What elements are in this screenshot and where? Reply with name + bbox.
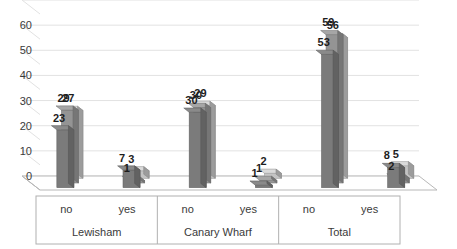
x-axis-category-label: yes <box>97 204 158 215</box>
x-axis-group-label: Total <box>279 227 400 238</box>
bar-value-label: 23 <box>53 113 65 124</box>
gridline-depth-edge <box>22 0 40 14</box>
x-axis-category-label: no <box>36 204 97 215</box>
y-axis-tick-label: 60 <box>2 20 32 31</box>
bar-value-label: 8 <box>384 150 390 161</box>
bar-side-face <box>68 126 73 188</box>
bar-value-label: 30 <box>185 95 197 106</box>
bar-value-label: 53 <box>318 37 330 48</box>
y-axis-tick-label: 40 <box>2 70 32 81</box>
bar-value-label: 5 <box>393 149 399 160</box>
x-axis-category-label: yes <box>218 204 279 215</box>
bar-side-face <box>135 166 140 188</box>
x-axis-category-label: yes <box>339 204 400 215</box>
bar-value-label: 59 <box>322 17 334 28</box>
y-axis-tick-label: 50 <box>2 45 32 56</box>
chart-floor <box>22 176 437 190</box>
y-axis-tick-label: 0 <box>2 171 32 182</box>
x-axis-category-label: no <box>157 204 218 215</box>
bar-side-face <box>333 50 338 187</box>
bar-value-label: 1 <box>251 168 257 179</box>
bars <box>51 30 413 187</box>
bar <box>316 50 338 187</box>
y-axis-tick-label: 30 <box>2 96 32 107</box>
y-axis-tick-label: 20 <box>2 121 32 132</box>
grouped-3d-column-chart: 2732925652913015922373015380102030405060… <box>0 0 457 249</box>
bar-value-label: 1 <box>124 163 130 174</box>
bar-value-label: 7 <box>119 153 125 164</box>
y-axis-tick-label: 10 <box>2 146 32 157</box>
x-axis-category-label: no <box>279 204 340 215</box>
bar-side-face <box>399 163 404 187</box>
bar-value-label: 29 <box>57 93 69 104</box>
bar-value-label: 2 <box>388 161 394 172</box>
x-axis-group-label: Lewisham <box>36 227 157 238</box>
bar-side-face <box>201 108 206 188</box>
x-axis-group-label: Canary Wharf <box>157 227 278 238</box>
